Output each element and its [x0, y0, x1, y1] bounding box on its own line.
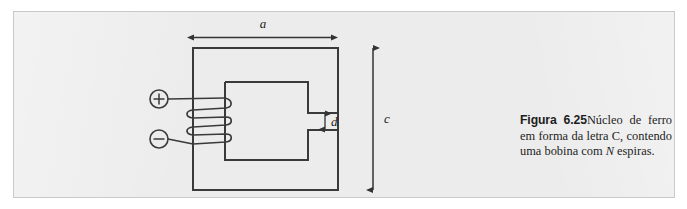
figure-caption: Figura 6.25Núcleo de ferro em forma da l… — [520, 113, 672, 160]
dimension-d-label: d — [331, 114, 338, 129]
core-inner-cutout — [225, 82, 338, 160]
dimension-c-label: c — [384, 111, 390, 126]
terminal-positive[interactable] — [150, 90, 168, 108]
iron-core-outline — [193, 48, 338, 190]
dimension-c: c — [373, 48, 390, 190]
core-outer-rect — [193, 48, 338, 190]
dimension-a: a — [194, 16, 331, 38]
dimension-d: d — [325, 114, 338, 130]
figure-page: a c d — [0, 0, 687, 209]
coil-winding — [168, 98, 231, 144]
figure-caption-symbol-n: N — [606, 144, 614, 158]
coil-lead-negative — [168, 139, 193, 144]
terminal-negative[interactable] — [150, 130, 168, 148]
figure-number-label: Figura 6.25 — [520, 113, 587, 127]
figure-caption-text-2: espiras. — [614, 144, 655, 158]
coil-lead-positive — [168, 98, 225, 99]
dimension-a-label: a — [260, 16, 267, 31]
c-core-diagram: a c d — [0, 0, 687, 209]
